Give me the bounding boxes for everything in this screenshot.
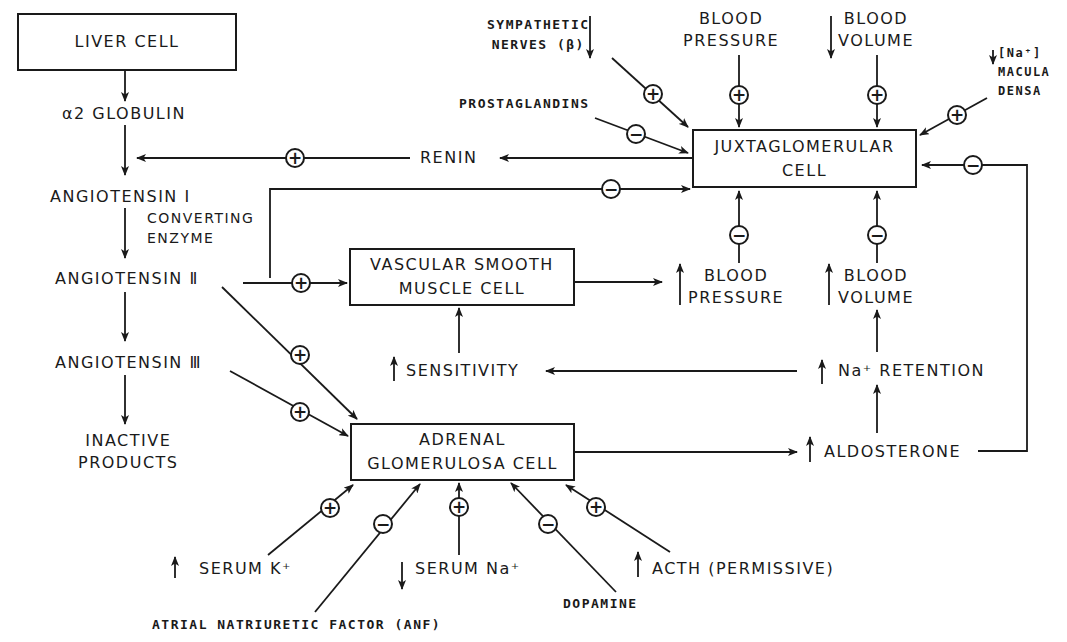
plus-sign-sympathetic: +	[643, 84, 663, 104]
renin-label: RENIN	[420, 147, 477, 169]
na-retention-label: Na⁺ RETENTION	[838, 360, 985, 382]
prostaglandins-label: PROSTAGLANDINS	[459, 94, 590, 114]
serum-k-label: SERUM K⁺	[199, 558, 292, 580]
inactive-line2: PRODUCTS	[78, 452, 179, 474]
alpha2-globulin-label: α2 GLOBULIN	[62, 103, 186, 125]
angiotensin-3-label: ANGIOTENSIN Ⅲ	[55, 352, 202, 374]
plus-sign-renin: +	[285, 148, 305, 168]
plus-sign-ang2-vsm: +	[291, 273, 311, 293]
minus-sign-high-bp: −	[729, 225, 749, 245]
minus-sign-ang2-jg: −	[601, 179, 621, 199]
adrenal-label-line1: ADRENAL	[419, 428, 506, 452]
minus-sign-anf: −	[373, 514, 393, 534]
low-blood-volume-label: BLOOD VOLUME	[838, 8, 914, 52]
dopamine-label: DOPAMINE	[563, 594, 638, 614]
minus-sign-high-bv: −	[867, 225, 887, 245]
macula-line1: [Na⁺]	[998, 44, 1050, 63]
jg-label-line1: JUXTAGLOMERULAR	[714, 135, 894, 159]
liver-cell-label: LIVER CELL	[75, 30, 180, 54]
angiotensin-1-label: ANGIOTENSIN Ⅰ	[50, 186, 191, 208]
plus-sign-acth: +	[586, 497, 606, 517]
high-blood-pressure-label: BLOOD PRESSURE	[688, 265, 784, 309]
high-bv-line1: BLOOD	[838, 265, 914, 287]
vascular-smooth-muscle-box: VASCULAR SMOOTH MUSCLE CELL	[349, 248, 575, 306]
macula-line3: DENSA	[998, 82, 1050, 101]
high-bp-line2: PRESSURE	[688, 287, 784, 309]
plus-sign-low-bv: +	[867, 85, 887, 105]
liver-cell-box: LIVER CELL	[17, 13, 237, 71]
high-bp-line1: BLOOD	[688, 265, 784, 287]
sensitivity-label: SENSITIVITY	[406, 360, 519, 382]
low-bv-line2: VOLUME	[838, 30, 914, 52]
vsm-label-line2: MUSCLE CELL	[399, 277, 526, 301]
low-bp-line2: PRESSURE	[683, 30, 779, 52]
plus-sign-ang3-adrenal: +	[290, 402, 310, 422]
acth-label: ACTH (PERMISSIVE)	[652, 558, 834, 580]
sympathetic-nerves-label: SYMPATHETIC NERVES (β)	[487, 15, 590, 55]
sympathetic-line2: NERVES (β)	[487, 35, 590, 55]
converting-enzyme-label: CONVERTING ENZYME	[147, 208, 254, 248]
angiotensin-2-label: ANGIOTENSIN Ⅱ	[55, 268, 199, 290]
minus-sign-prostaglandins: −	[626, 124, 646, 144]
anf-label: ATRIAL NATRIURETIC FACTOR (ANF)	[152, 615, 441, 635]
minus-sign-aldosterone-jg: −	[963, 155, 983, 175]
serum-na-label: SERUM Na⁺	[415, 558, 521, 580]
minus-sign-dopamine: −	[538, 514, 558, 534]
high-blood-volume-label: BLOOD VOLUME	[838, 265, 914, 309]
inactive-products-label: INACTIVE PRODUCTS	[78, 430, 179, 474]
macula-densa-label: [Na⁺] MACULA DENSA	[998, 44, 1050, 101]
low-bp-line1: BLOOD	[683, 8, 779, 30]
converting-line1: CONVERTING	[147, 208, 254, 228]
adrenal-glomerulosa-box: ADRENAL GLOMERULOSA CELL	[350, 423, 575, 481]
plus-sign-low-bp: +	[729, 85, 749, 105]
macula-line2: MACULA	[998, 63, 1050, 82]
plus-sign-ang2-adrenal: +	[290, 345, 310, 365]
converting-line2: ENZYME	[147, 228, 254, 248]
aldosterone-label: ALDOSTERONE	[824, 441, 961, 463]
low-bv-line1: BLOOD	[838, 8, 914, 30]
inactive-line1: INACTIVE	[78, 430, 179, 452]
plus-sign-serum-na: +	[449, 497, 469, 517]
high-bv-line2: VOLUME	[838, 287, 914, 309]
adrenal-label-line2: GLOMERULOSA CELL	[367, 452, 558, 476]
jg-label-line2: CELL	[782, 159, 827, 183]
low-blood-pressure-label: BLOOD PRESSURE	[683, 8, 779, 52]
plus-sign-macula-densa: +	[947, 105, 967, 125]
sympathetic-line1: SYMPATHETIC	[487, 15, 590, 35]
juxtaglomerular-cell-box: JUXTAGLOMERULAR CELL	[692, 129, 917, 188]
plus-sign-serum-k: +	[320, 498, 340, 518]
vsm-label-line1: VASCULAR SMOOTH	[370, 253, 554, 277]
